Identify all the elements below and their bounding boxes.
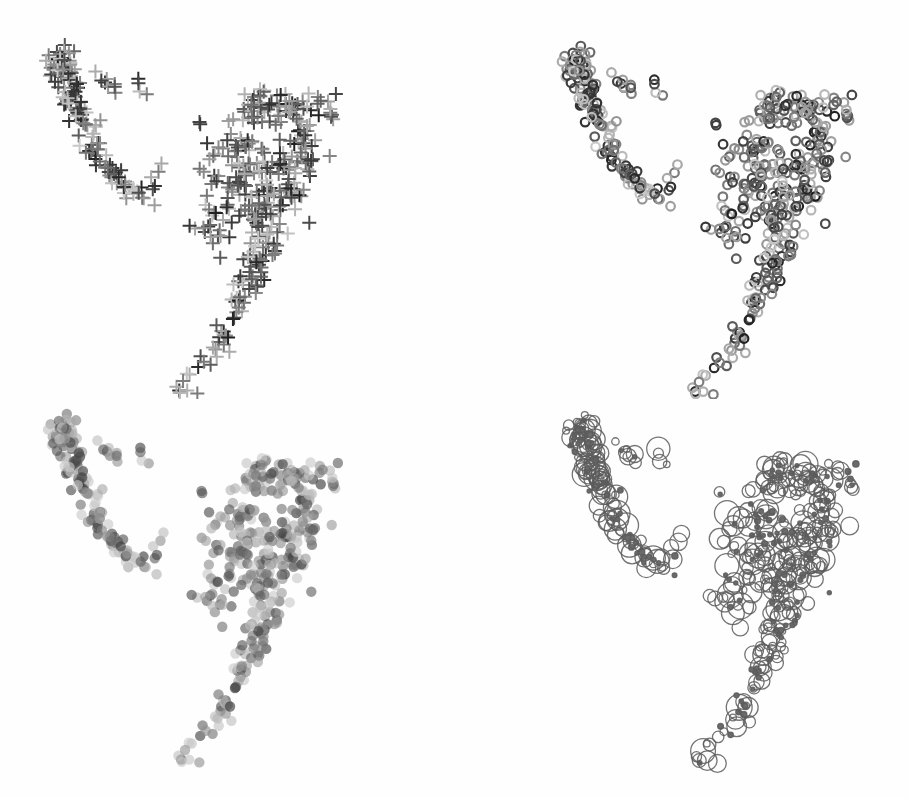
data-point [314,468,324,478]
data-point [213,545,223,555]
data-point [618,487,624,493]
data-point [728,322,737,331]
data-point [820,90,829,99]
data-point [657,561,661,565]
data-point [734,581,738,585]
data-point [737,598,741,602]
data-point [264,532,274,542]
data-point [249,505,259,515]
data-point [298,516,308,526]
data-point [257,460,267,470]
data-point [616,517,620,521]
data-point [719,593,728,602]
data-point [235,549,245,559]
data-point [327,473,337,483]
data-point [793,622,797,626]
data-point [585,466,589,470]
data-point [314,94,328,108]
data-point [323,149,337,163]
scatter-panel-sized: Size-encoded circles [454,399,908,798]
data-point [743,703,748,708]
data-point [190,386,204,399]
data-point [74,448,84,458]
data-point [80,487,90,497]
data-point [273,217,287,231]
data-point [275,480,285,490]
data-point [745,482,760,497]
data-point [306,535,316,545]
data-point [97,484,107,494]
data-point [256,567,266,577]
data-point [255,142,269,156]
data-point [619,449,623,453]
data-point [333,458,343,468]
data-point [259,513,269,523]
data-point [213,577,223,587]
data-point [841,517,859,535]
data-point [263,577,273,587]
data-point [200,592,210,602]
data-point [285,543,295,553]
data-point [217,600,227,610]
data-point [215,511,225,521]
data-point [759,509,764,514]
data-point [224,562,234,572]
data-point [791,221,800,230]
data-point [273,488,283,498]
data-point [734,693,739,698]
data-point [92,435,102,445]
data-point [223,571,233,581]
data-point [821,219,830,228]
data-point [776,606,781,611]
data-point [780,516,786,522]
data-point [230,683,240,693]
data-point [276,504,286,514]
data-point [825,460,833,468]
data-point [236,580,246,590]
data-point [148,179,162,193]
data-point [253,251,267,265]
data-point [827,591,831,595]
data-point [225,215,239,229]
data-point [819,520,823,524]
data-point [304,470,314,480]
data-point [708,754,726,772]
data-point [672,553,678,559]
data-point [293,482,303,492]
data-point [193,117,207,131]
data-point [302,216,316,230]
data-point [326,520,336,530]
data-point [180,745,190,755]
data-point [133,85,147,99]
data-point [225,701,235,711]
scatter-panel-ring: Open ring markers [454,0,908,399]
data-point [240,484,250,494]
data-point [210,711,220,721]
data-point [727,577,732,582]
data-point [642,555,646,559]
data-point [253,657,263,667]
data-point [173,386,187,399]
data-point [848,91,857,100]
data-point [734,549,738,553]
data-point [292,573,302,583]
data-point [206,523,216,533]
data-point [140,87,154,101]
data-point [264,598,274,608]
data-point [98,444,108,454]
data-point [728,732,734,738]
data-point [275,538,285,548]
figure: Plus markers Open ring markers Transluce… [0,0,909,798]
data-point [845,468,851,474]
data-point [666,202,675,211]
data-point [725,344,734,353]
data-point [703,589,716,602]
data-point [272,617,282,627]
data-point [779,635,783,639]
data-point [288,202,302,216]
data-point [136,556,146,566]
data-point [146,182,160,196]
data-point [695,378,704,387]
data-point [823,516,829,522]
data-point [281,226,295,240]
